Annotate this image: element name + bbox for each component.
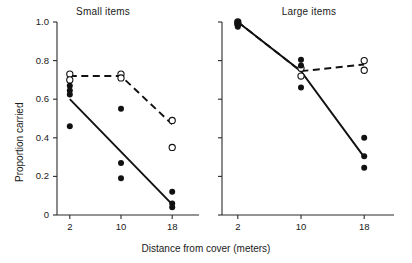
figure-root: Small items 00.20.40.60.81.021018 Large … xyxy=(0,0,412,263)
y-axis-label: Proportion carried xyxy=(14,103,25,182)
x-tick-label: 18 xyxy=(160,222,184,232)
data-point-open-circles xyxy=(298,73,304,79)
data-point-filled-circles xyxy=(118,106,124,112)
fit-line-filled-circles xyxy=(70,99,172,204)
data-point-filled-circles xyxy=(169,189,175,195)
x-tick-label: 2 xyxy=(58,222,82,232)
x-axis-label: Distance from cover (meters) xyxy=(0,243,412,254)
fit-line-open-circles xyxy=(70,76,172,124)
y-tick-label: 0 xyxy=(23,210,49,220)
data-point-filled-circles xyxy=(361,135,367,141)
data-point-filled-circles xyxy=(298,57,304,63)
data-point-open-circles xyxy=(67,77,73,83)
x-tick-label: 18 xyxy=(352,222,376,232)
data-point-open-circles xyxy=(118,75,124,81)
y-tick-label: 0.8 xyxy=(23,56,49,66)
data-point-filled-circles xyxy=(67,91,73,97)
x-tick-label: 2 xyxy=(226,222,250,232)
data-point-filled-circles xyxy=(118,160,124,166)
y-tick-label: 0.6 xyxy=(23,94,49,104)
data-point-filled-circles xyxy=(298,85,304,91)
y-tick-label: 1.0 xyxy=(23,17,49,27)
data-point-filled-circles xyxy=(67,123,73,129)
data-point-filled-circles xyxy=(361,165,367,171)
data-point-filled-circles xyxy=(169,204,175,210)
panel-small-items: Small items 00.20.40.60.81.021018 xyxy=(0,0,206,263)
y-tick-label: 0.2 xyxy=(23,171,49,181)
data-point-filled-circles xyxy=(118,175,124,181)
x-tick-label: 10 xyxy=(289,222,313,232)
y-tick-label: 0.4 xyxy=(23,133,49,143)
data-point-open-circles xyxy=(169,117,175,123)
data-point-open-circles xyxy=(361,67,367,73)
panel-large-items: Large items 21018 xyxy=(206,0,412,263)
data-point-filled-circles xyxy=(235,24,241,30)
data-point-open-circles xyxy=(361,58,367,64)
data-point-open-circles xyxy=(169,144,175,150)
x-tick-label: 10 xyxy=(109,222,133,232)
data-point-filled-circles xyxy=(361,153,367,159)
data-point-filled-circles xyxy=(298,62,304,68)
